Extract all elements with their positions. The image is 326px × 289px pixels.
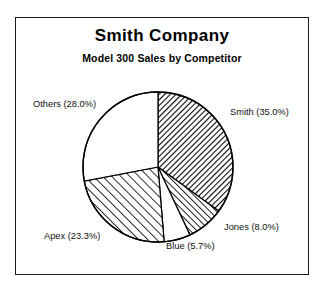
pie-label-blue: Blue (5.7%) (166, 241, 215, 252)
pie-label-smith: Smith (35.0%) (230, 107, 289, 118)
pie-slice-group (83, 92, 233, 242)
pie-label-others: Others (28.0%) (33, 99, 96, 110)
chart-canvas: Smith Company Model 300 Sales by Competi… (0, 0, 326, 289)
pie-label-jones: Jones (8.0%) (224, 222, 279, 233)
pie-label-apex: Apex (23.3%) (44, 231, 100, 242)
